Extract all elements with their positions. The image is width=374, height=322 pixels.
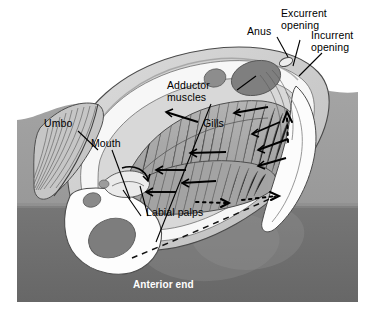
label-incurrent-opening: Incurrent opening [311,30,353,53]
label-adductor-muscles: Adductor muscles [167,80,210,103]
diagram-canvas: Anus Excurrent opening Incurrent opening… [0,0,374,322]
mouth-opening [99,180,109,188]
label-umbo: Umbo [44,118,72,130]
label-gills: Gills [203,118,224,130]
label-anterior-end: Anterior end [133,279,194,291]
label-excurrent-opening: Excurrent opening [281,8,327,31]
label-mouth: Mouth [91,138,121,150]
label-labial-palps: Labial palps [146,207,203,219]
label-anus: Anus [247,26,271,38]
